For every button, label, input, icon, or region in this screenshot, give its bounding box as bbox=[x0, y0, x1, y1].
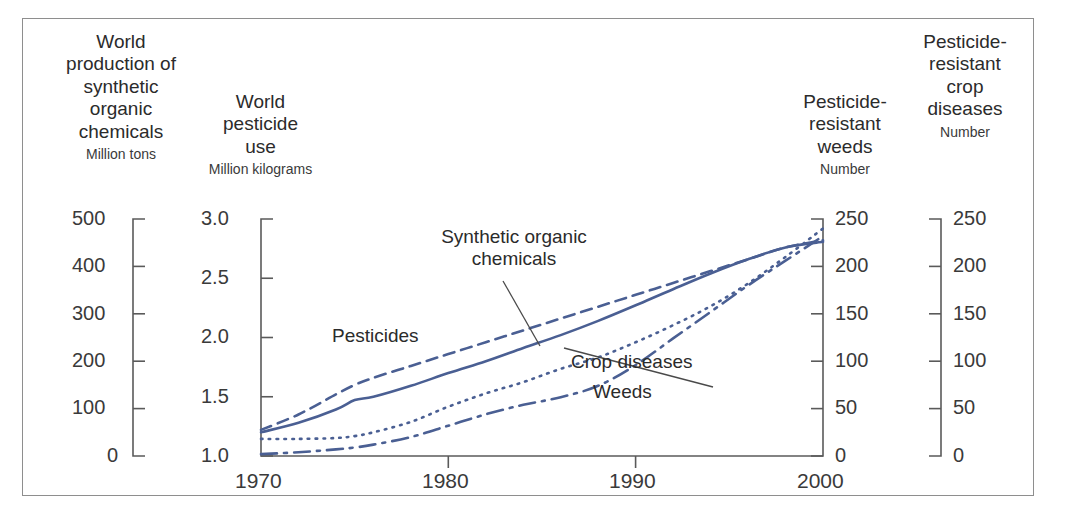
xtick-label: 1970 bbox=[235, 469, 282, 493]
axis-spine-synthetic-organic-chemicals bbox=[133, 219, 145, 456]
ytick-label-axis1: 400 bbox=[72, 254, 105, 277]
series-label-line: chemicals bbox=[404, 248, 624, 270]
series-label-weeds: Weeds bbox=[593, 381, 652, 403]
xtick-label: 1990 bbox=[609, 469, 656, 493]
xtick-label: 1980 bbox=[422, 469, 469, 493]
xtick-label: 2000 bbox=[797, 469, 844, 493]
axis-spine-world-pesticide-use bbox=[261, 219, 273, 456]
ytick-label-axis3: 150 bbox=[835, 302, 868, 325]
ytick-label-axis1: 300 bbox=[72, 302, 105, 325]
ytick-label-axis4: 150 bbox=[953, 302, 986, 325]
ytick-label-axis2: 2.5 bbox=[201, 266, 229, 289]
ytick-label-axis4: 200 bbox=[953, 254, 986, 277]
ytick-label-axis2: 1.5 bbox=[201, 385, 229, 408]
leader-synthetic-organic-chemicals bbox=[503, 281, 540, 346]
ytick-label-axis3: 0 bbox=[835, 444, 846, 467]
ytick-label-axis2: 2.0 bbox=[201, 325, 229, 348]
ytick-label-axis3: 200 bbox=[835, 254, 868, 277]
series-label-synthetic-organic-chemicals: Synthetic organic chemicals bbox=[404, 226, 624, 270]
series-label-pesticides: Pesticides bbox=[332, 325, 419, 347]
ytick-label-axis3: 100 bbox=[835, 349, 868, 372]
ytick-label-axis2: 3.0 bbox=[201, 207, 229, 230]
ytick-label-axis4: 250 bbox=[953, 207, 986, 230]
figure-frame: World production of synthetic organic ch… bbox=[22, 18, 1034, 496]
ytick-label-axis4: 100 bbox=[953, 349, 986, 372]
ytick-label-axis4: 0 bbox=[953, 444, 964, 467]
ytick-label-axis1: 0 bbox=[107, 444, 118, 467]
ytick-label-axis1: 100 bbox=[72, 396, 105, 419]
ytick-label-axis3: 250 bbox=[835, 207, 868, 230]
axis-spine-pesticide-resistant-crop-diseases bbox=[929, 219, 941, 456]
ytick-label-axis2: 1.0 bbox=[201, 444, 229, 467]
ytick-label-axis1: 200 bbox=[72, 349, 105, 372]
x-axis bbox=[261, 456, 823, 468]
ytick-label-axis3: 50 bbox=[835, 396, 857, 419]
ytick-label-axis1: 500 bbox=[72, 207, 105, 230]
series-label-line: Synthetic organic bbox=[404, 226, 624, 248]
series-label-crop-diseases: Crop diseases bbox=[571, 351, 692, 373]
ytick-label-axis4: 50 bbox=[953, 396, 975, 419]
axis-spine-pesticide-resistant-weeds bbox=[811, 219, 823, 456]
